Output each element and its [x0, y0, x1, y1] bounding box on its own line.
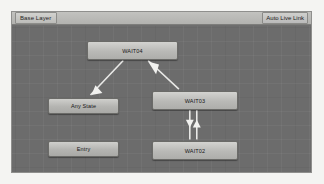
- state-node-label: WAIT03: [185, 98, 206, 104]
- breadcrumb-base-layer[interactable]: Base Layer: [15, 12, 57, 24]
- transition-wait04-to-anystate[interactable]: [90, 61, 123, 96]
- animator-window: Base Layer Auto Live Link .edge-line { s…: [11, 11, 312, 173]
- state-node-any-state[interactable]: Any State: [48, 98, 119, 114]
- screenshot-root: Base Layer Auto Live Link .edge-line { s…: [0, 0, 324, 184]
- state-node-wait02[interactable]: WAIT02: [152, 141, 238, 160]
- state-node-label: Any State: [71, 103, 96, 109]
- state-node-label: WAIT04: [122, 48, 143, 54]
- transition-wait02-to-wait03[interactable]: [193, 109, 201, 140]
- animator-toolbar: Base Layer Auto Live Link: [12, 12, 311, 25]
- state-node-label: WAIT02: [185, 148, 206, 154]
- transition-wait03-to-wait04[interactable]: [148, 61, 179, 90]
- auto-live-link-button[interactable]: Auto Live Link: [262, 12, 308, 24]
- state-node-wait03[interactable]: WAIT03: [152, 91, 238, 110]
- transition-wait03-to-wait02[interactable]: [186, 109, 194, 140]
- state-node-label: Entry: [77, 146, 91, 152]
- state-node-entry[interactable]: Entry: [48, 141, 119, 157]
- state-machine-canvas[interactable]: .edge-line { stroke: #e9e9e7; stroke-wid…: [12, 26, 311, 172]
- state-node-wait04[interactable]: WAIT04: [87, 41, 178, 60]
